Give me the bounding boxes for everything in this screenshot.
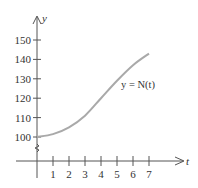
- y-tick-label: 150: [15, 34, 32, 46]
- x-tick-label: 3: [82, 168, 88, 180]
- y-tick-label: 130: [15, 73, 32, 85]
- y-tick-label: 100: [15, 131, 32, 143]
- y-axis-label: y: [41, 12, 47, 24]
- y-tick-label: 120: [15, 92, 32, 104]
- x-axis: t: [16, 155, 190, 167]
- x-tick-label: 5: [114, 168, 120, 180]
- curve-N-of-t: [37, 54, 149, 137]
- y-tick-label: 140: [15, 53, 32, 65]
- chart: y 100110120130140150 t 1234567 y = N(t): [0, 0, 198, 188]
- y-axis: y: [33, 12, 47, 178]
- x-tick-label: 6: [130, 168, 136, 180]
- x-tick-label: 4: [98, 168, 104, 180]
- x-axis-label: t: [186, 155, 190, 167]
- x-tick-label: 7: [146, 168, 152, 180]
- y-tick-label: 110: [15, 112, 32, 124]
- curve-label: y = N(t): [121, 79, 155, 91]
- x-ticks: 1234567: [50, 156, 152, 180]
- x-tick-label: 1: [50, 168, 56, 180]
- x-tick-label: 2: [66, 168, 72, 180]
